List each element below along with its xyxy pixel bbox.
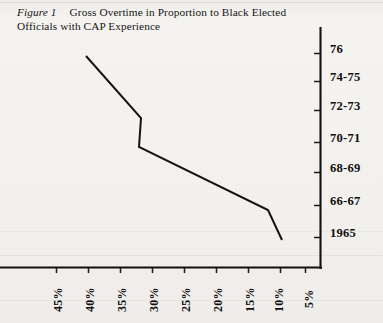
- x-axis-label-20pct: 20%: [211, 287, 226, 312]
- x-axis-ticks: [57, 268, 306, 273]
- y-axis-ticks: [314, 54, 320, 238]
- y-axis-label-70-71: 70-71: [330, 131, 360, 146]
- scanned-page-background: Figure 1Gross Overtime in Proportion to …: [0, 0, 383, 323]
- x-axis-label-45pct: 45%: [51, 287, 66, 312]
- y-axis-label-1965: 1965: [330, 226, 356, 241]
- y-axis-label-76: 76: [330, 42, 343, 57]
- y-axis-label-72-73: 72-73: [330, 99, 360, 114]
- y-axis-label-74-75: 74-75: [330, 70, 360, 85]
- x-axis-label-30pct: 30%: [147, 287, 162, 312]
- data-series-line: [86, 56, 282, 240]
- x-axis-label-40pct: 40%: [83, 287, 98, 312]
- y-axis-label-68-69: 68-69: [330, 161, 360, 176]
- x-axis-label-35pct: 35%: [115, 287, 130, 312]
- y-axis-label-66-67: 66-67: [330, 194, 360, 209]
- x-axis-label-25pct: 25%: [179, 287, 194, 312]
- x-axis-label-10pct: 10%: [272, 287, 287, 312]
- x-axis-label-15pct: 15%: [243, 287, 258, 312]
- x-axis-label-5pct: 5%: [302, 289, 317, 308]
- line-chart-plot: [0, 0, 383, 323]
